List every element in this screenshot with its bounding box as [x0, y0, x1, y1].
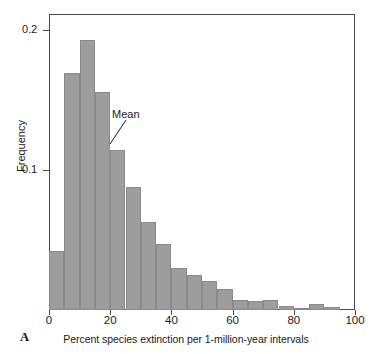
x-axis-tick-label: 0: [34, 314, 64, 326]
histogram-bar: [263, 300, 278, 311]
histogram-bar: [171, 268, 186, 310]
mean-leader-line: [106, 118, 128, 146]
histogram-bar: [126, 187, 141, 310]
x-axis-tick-label: 60: [218, 314, 248, 326]
histogram-bar: [202, 281, 217, 310]
x-axis-tick-label: 100: [340, 314, 370, 326]
x-axis-tick-label: 40: [156, 314, 186, 326]
histogram-bar: [217, 289, 232, 310]
histogram-bar: [309, 304, 324, 310]
histogram-bar: [110, 150, 125, 310]
histogram-bar: [233, 300, 248, 311]
x-axis-tick-label: 20: [95, 314, 125, 326]
histogram-bar: [324, 307, 339, 310]
histogram-bar: [248, 301, 263, 310]
y-axis-label: Frequency: [15, 101, 27, 191]
x-axis-label: Percent species extinction per 1-million…: [0, 333, 372, 345]
histogram-figure: 0.10.2 Frequency 020406080100 Percent sp…: [0, 0, 372, 354]
histogram-bar: [294, 308, 309, 310]
histogram-bar: [64, 73, 79, 310]
histogram-bar: [49, 251, 64, 310]
histogram-bar: [187, 275, 202, 310]
x-axis-tick-label: 80: [279, 314, 309, 326]
y-axis-tick-label: 0.2: [3, 23, 37, 35]
histogram-bar: [279, 306, 294, 310]
histogram-bar: [141, 222, 156, 310]
histogram-bar: [156, 244, 171, 310]
histogram-bars: [49, 14, 355, 310]
y-axis-tick-mark: [43, 30, 50, 31]
panel-label: A: [20, 330, 29, 345]
histogram-bar: [80, 40, 95, 310]
y-axis-tick-mark: [43, 170, 50, 171]
